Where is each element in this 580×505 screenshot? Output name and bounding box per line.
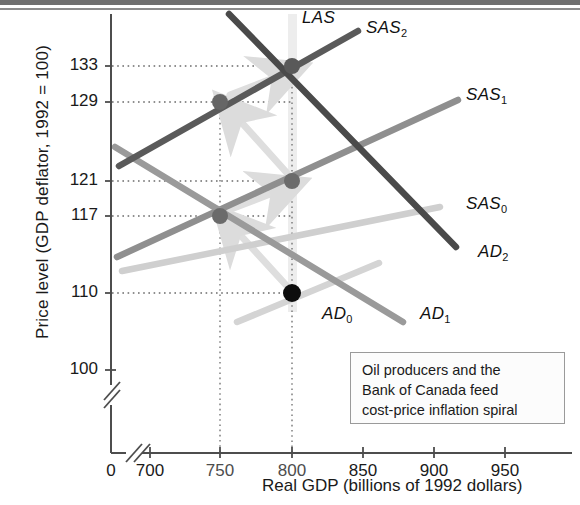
y-axis-break	[104, 382, 120, 408]
point-e0	[283, 284, 301, 302]
curve-label-ad1-text: AD	[420, 304, 444, 323]
point-e3	[212, 94, 228, 110]
curve-label-sas1-sub: 1	[501, 94, 507, 106]
x-tick-700: 700	[120, 461, 180, 481]
curve-label-ad0: AD0	[322, 304, 353, 325]
curve-label-ad2-sub: 2	[502, 251, 508, 263]
curve-label-ad2-text: AD	[478, 242, 502, 261]
y-tick-117: 117	[40, 205, 98, 225]
figure-container: Price level (GDP deflator, 1992 = 100) 1…	[0, 0, 580, 505]
curve-label-las: LAS	[302, 8, 335, 28]
y-tick-129: 129	[40, 91, 98, 111]
curve-ad2	[229, 14, 456, 247]
point-e1	[212, 208, 228, 224]
curve-label-sas2-text: SAS	[366, 18, 401, 37]
y-tick-100: 100	[40, 359, 98, 379]
annotation-textbox: Oil producers and the Bank of Canada fee…	[350, 352, 565, 424]
y-axis-title: Price level (GDP deflator, 1992 = 100)	[33, 27, 53, 357]
curve-label-sas2-sub: 2	[401, 27, 407, 39]
curve-label-sas1-text: SAS	[466, 85, 501, 104]
y-tick-110: 110	[40, 282, 98, 302]
y-tick-121: 121	[40, 170, 98, 190]
x-axis-title: Real GDP (billions of 1992 dollars)	[262, 476, 522, 496]
curve-label-sas2: SAS2	[366, 18, 407, 39]
curve-sas2	[119, 31, 358, 166]
point-e4	[284, 58, 300, 74]
y-tick-133: 133	[40, 55, 98, 75]
curve-label-ad0-text: AD	[322, 304, 346, 323]
curve-label-ad1-sub: 1	[444, 313, 450, 325]
annotation-line-3: cost-price inflation spiral	[362, 400, 555, 420]
curve-label-sas1: SAS1	[466, 85, 507, 106]
curve-label-sas0-text: SAS	[466, 194, 501, 213]
curve-label-las-text: LAS	[302, 8, 335, 27]
annotation-line-2: Bank of Canada feed	[362, 380, 555, 400]
curve-label-ad2: AD2	[478, 242, 509, 263]
curve-label-sas0-sub: 0	[501, 203, 507, 215]
curve-label-ad1: AD1	[420, 304, 451, 325]
x-tick-750: 750	[190, 461, 250, 481]
curve-label-sas0: SAS0	[466, 194, 507, 215]
point-e2	[284, 173, 300, 189]
curve-label-ad0-sub: 0	[346, 313, 352, 325]
annotation-line-1: Oil producers and the	[362, 360, 555, 380]
